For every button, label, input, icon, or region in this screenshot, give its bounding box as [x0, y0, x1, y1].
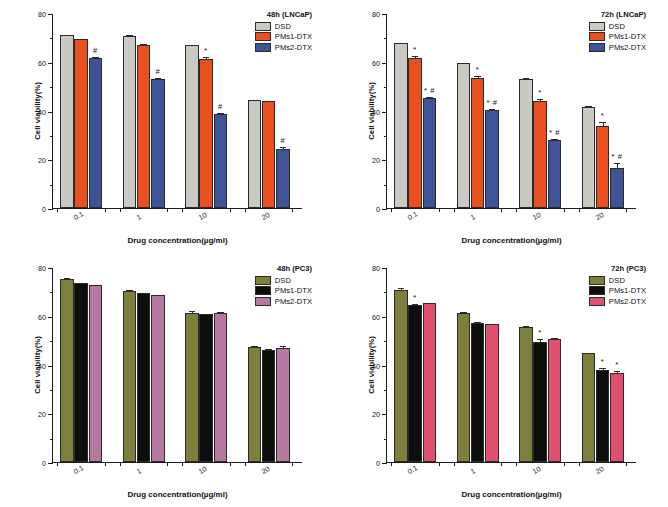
- chart-panel-b: Cell viability(%)0204060800.1** #1** #10…: [334, 0, 668, 253]
- bar-pms2-dtx: [485, 110, 499, 208]
- legend-item-pms1-dtx: PMs1-DTX: [255, 32, 312, 41]
- error-bar-cap: [189, 311, 195, 312]
- legend-item-pms2-dtx: PMs2-DTX: [589, 297, 646, 306]
- bar-dsd: [519, 327, 533, 462]
- y-axis-tick-label: 80: [372, 264, 380, 273]
- legend-item-label: PMs2-DTX: [609, 297, 646, 306]
- x-axis-tick: [230, 462, 231, 466]
- legend-item-pms1-dtx: PMs1-DTX: [589, 286, 646, 295]
- error-bar-cap: [585, 353, 591, 354]
- legend-title: 72h (PC3): [589, 264, 646, 273]
- error-bar-cap: [92, 57, 98, 58]
- chart-legend: 48h (PC3)DSDPMs1-DTXPMs2-DTX: [255, 264, 312, 307]
- bar-pms2-dtx: [151, 295, 165, 462]
- bar-dsd: [394, 43, 408, 208]
- error-bar-cap: [398, 288, 404, 289]
- legend-item-label: PMs1-DTX: [275, 32, 312, 41]
- bar-dsd: [60, 35, 74, 208]
- y-axis-tick-label: 40: [372, 361, 380, 370]
- error-bar-cap: [140, 293, 146, 294]
- error-bar-cap: [217, 312, 223, 313]
- error-bar-cap: [126, 35, 132, 36]
- bar-pms1-dtx: [262, 101, 276, 208]
- error-bar-cap: [474, 76, 480, 77]
- legend-item-label: PMs1-DTX: [275, 286, 312, 295]
- significance-marker: * #: [486, 99, 497, 107]
- legend-swatch-icon: [589, 276, 605, 285]
- x-axis-tick: [245, 208, 246, 212]
- bar-pms1-dtx: [199, 314, 213, 462]
- bar-pms1-dtx: [74, 39, 88, 208]
- significance-marker: *: [538, 89, 542, 97]
- bar-pms1-dtx: [596, 370, 610, 462]
- bar-pms2-dtx: [89, 285, 103, 462]
- error-bar-cap: [412, 56, 418, 57]
- error-bar-cap: [599, 122, 605, 123]
- y-axis-tick-label: 20: [372, 156, 380, 165]
- x-axis-tick-label: 10: [197, 210, 208, 222]
- error-bar-cap: [412, 304, 418, 305]
- y-axis-tick: [382, 463, 387, 464]
- legend-swatch-icon: [255, 22, 271, 31]
- error-bar-cap: [474, 322, 480, 323]
- legend-swatch-icon: [589, 43, 605, 52]
- bar-pms2-dtx: [89, 58, 103, 208]
- error-bar-cap: [251, 100, 257, 101]
- x-axis-tick: [182, 462, 183, 466]
- error-bar-cap: [155, 295, 161, 296]
- error-bar-cap: [523, 326, 529, 327]
- x-axis-tick-label: 1: [135, 212, 143, 222]
- x-axis-tick-label: 20: [594, 210, 605, 222]
- error-bar-cap: [251, 346, 257, 347]
- error-bar-cap: [398, 43, 404, 44]
- legend-title: 48h (PC3): [255, 264, 312, 273]
- bar-pms2-dtx: [151, 79, 165, 208]
- chart-legend: 72h (PC3)DSDPMs1-DTXPMs2-DTX: [589, 264, 646, 307]
- error-bar-cap: [585, 106, 591, 107]
- y-axis-tick-label: 60: [38, 58, 46, 67]
- error-bar-cap: [489, 324, 495, 325]
- bar-pms2-dtx: [214, 114, 228, 208]
- error-bar-cap: [265, 349, 271, 350]
- x-axis-tick: [439, 462, 440, 466]
- y-axis-tick-label: 0: [376, 459, 380, 468]
- bar-pms2-dtx: [423, 98, 437, 208]
- bar-pms2-dtx: [610, 168, 624, 208]
- error-bar-cap: [203, 57, 209, 58]
- x-axis-tick: [120, 208, 121, 212]
- y-axis-tick: [382, 209, 387, 210]
- bar-pms1-dtx: [262, 350, 276, 462]
- error-bar-cap: [189, 45, 195, 46]
- error-bar-cap: [64, 35, 70, 36]
- error-bar-cap: [78, 39, 84, 40]
- y-axis-tick-label: 80: [38, 10, 46, 19]
- error-bar-cap: [126, 290, 132, 291]
- significance-marker: *: [601, 358, 605, 366]
- y-axis-tick-label: 20: [38, 156, 46, 165]
- legend-swatch-icon: [589, 286, 605, 295]
- x-axis-tick-label: 10: [531, 210, 542, 222]
- x-axis-tick: [501, 462, 502, 466]
- legend-item-label: DSD: [275, 22, 291, 31]
- x-axis-tick: [182, 208, 183, 212]
- significance-marker: #: [93, 47, 98, 55]
- x-axis-tick-label: 1: [469, 212, 477, 222]
- legend-item-label: PMs2-DTX: [609, 43, 646, 52]
- legend-item-dsd: DSD: [589, 22, 646, 31]
- significance-marker: *: [538, 329, 542, 337]
- x-axis-tick: [105, 462, 106, 466]
- bar-dsd: [123, 291, 137, 462]
- error-bar-cap: [523, 78, 529, 79]
- error-bar-cap: [64, 278, 70, 279]
- error-bar-cap: [551, 338, 557, 339]
- legend-item-dsd: DSD: [255, 22, 312, 31]
- bar-pms2-dtx: [214, 313, 228, 462]
- legend-item-label: PMs2-DTX: [275, 297, 312, 306]
- legend-item-pms2-dtx: PMs2-DTX: [589, 43, 646, 52]
- legend-swatch-icon: [255, 297, 271, 306]
- x-axis-tick: [292, 208, 293, 212]
- x-axis-title: Drug concentration(µg/ml): [387, 236, 636, 245]
- x-axis-tick-label: 10: [197, 464, 208, 476]
- x-axis-tick-label: 1: [469, 466, 477, 476]
- bar-dsd: [519, 79, 533, 208]
